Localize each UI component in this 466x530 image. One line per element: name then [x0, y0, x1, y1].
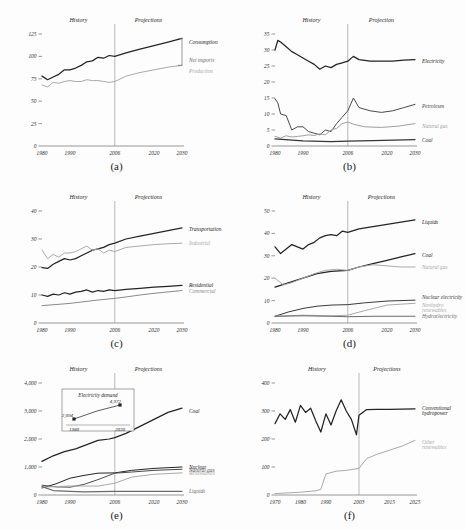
y-tick-label: 3,000: [23, 408, 36, 414]
y-tick-label: 100: [261, 464, 269, 470]
y-tick-label: 40: [31, 208, 37, 214]
y-tick-label: 75: [31, 76, 37, 82]
chart-svg: 0100200300400197019801990200320152025His…: [233, 357, 466, 512]
projection-label: Projections: [134, 366, 163, 372]
y-tick-label: 4,000: [24, 380, 36, 386]
series-label: Electricity: [421, 58, 445, 64]
series-label: Petroleum: [421, 103, 444, 109]
x-tick-label: 2025: [410, 499, 421, 505]
x-tick-label: 2020: [149, 150, 160, 156]
series-line: [42, 38, 182, 79]
panel-caption: (d): [233, 337, 466, 349]
x-tick-label: 1990: [321, 499, 332, 505]
history-label: History: [68, 17, 87, 23]
series-label: Coal: [422, 137, 433, 143]
series-line: [42, 228, 182, 269]
series-label: Natural gas: [421, 123, 448, 129]
series-line: [42, 473, 182, 487]
x-tick-label: 2020: [382, 327, 393, 333]
y-tick-label: 20: [31, 264, 37, 270]
x-tick-label: 2003: [354, 499, 365, 505]
series-line: [275, 139, 415, 142]
y-tick-label: 20: [264, 79, 270, 85]
chart-panel-a: 025507510012519801990200620202030History…: [0, 8, 233, 184]
y-tick-label: 15: [264, 95, 270, 101]
y-tick-label: 10: [264, 298, 270, 304]
series-line: [275, 220, 415, 254]
projection-label: Projections: [372, 366, 401, 372]
chart-panel-b: 0510152025303519801990200620202030Histor…: [233, 8, 466, 184]
history-label: History: [68, 194, 87, 200]
chart-panel-e: 01,0002,0003,0004,0001980199020062020203…: [0, 357, 233, 530]
series-label: Production: [188, 68, 213, 74]
series-label: Coal: [422, 252, 433, 258]
y-tick-label: 125: [28, 31, 36, 37]
x-tick-label: 1980: [37, 150, 48, 156]
panel-caption: (b): [233, 160, 466, 172]
panel-caption: (c): [0, 337, 233, 349]
series-line: [275, 122, 415, 138]
x-tick-label: 1990: [298, 150, 309, 156]
y-tick-label: 30: [263, 47, 270, 53]
series-line: [275, 265, 415, 285]
y-tick-label: 30: [263, 253, 270, 259]
series-label: Coal: [189, 408, 200, 414]
x-tick-label: 2020: [149, 499, 160, 505]
series-line: [42, 65, 182, 87]
series-line: [42, 469, 182, 487]
chart-svg: 0102030405019801990200620202030HistoryPr…: [233, 185, 466, 340]
y-tick-label: 20: [264, 275, 270, 281]
x-tick-label: 1980: [270, 327, 281, 333]
x-tick-label: 1980: [37, 327, 48, 333]
x-tick-label: 2006: [109, 327, 120, 333]
series-label: Net imports: [188, 57, 214, 63]
panel-caption: (f): [233, 509, 466, 521]
history-label: History: [301, 194, 320, 200]
y-tick-label: 0: [34, 492, 37, 498]
chart-panel-f: 0100200300400197019801990200320152025His…: [233, 357, 466, 530]
history-label: History: [301, 17, 320, 23]
history-label: History: [307, 366, 326, 372]
y-tick-label: 400: [261, 380, 269, 386]
x-tick-label: 2006: [109, 150, 120, 156]
series-line: [275, 316, 415, 317]
series-line: [275, 98, 415, 135]
x-tick-label: 2015: [384, 499, 395, 505]
series-label: Renewables: [188, 470, 215, 476]
y-tick-label: 50: [31, 98, 37, 104]
x-tick-label: 2030: [177, 499, 188, 505]
x-tick-label: 2006: [342, 150, 353, 156]
series-line: [275, 400, 415, 435]
x-tick-label: 1990: [65, 499, 76, 505]
x-tick-label: 2030: [410, 327, 421, 333]
y-tick-label: 30: [30, 236, 37, 242]
y-tick-label: 0: [34, 320, 37, 326]
y-tick-label: 200: [261, 436, 269, 442]
x-tick-label: 2030: [410, 150, 421, 156]
x-tick-label: 1990: [65, 327, 76, 333]
chart-svg: 0510152025303519801990200620202030Histor…: [233, 8, 466, 163]
y-tick-label: 0: [267, 320, 270, 326]
series-label: renewables: [422, 444, 446, 450]
chart-panel-d: 0102030405019801990200620202030HistoryPr…: [233, 185, 466, 361]
projection-label: Projection: [368, 17, 394, 23]
chart-svg: 01020304019801990200620202030HistoryProj…: [0, 185, 233, 340]
series-label: Commercial: [189, 288, 216, 294]
inset-title: Electricity demand: [77, 392, 118, 398]
y-tick-label: 1,000: [24, 464, 36, 470]
series-label: hydropower: [422, 410, 449, 416]
x-tick-label: 2006: [342, 327, 353, 333]
series-line: [275, 300, 415, 316]
x-tick-label: 2030: [177, 150, 188, 156]
inset-x-tick-label: 2030: [115, 427, 126, 432]
projection-label: Projections: [134, 17, 163, 23]
history-label: History: [68, 366, 87, 372]
y-tick-label: 5: [267, 127, 270, 133]
series-label: Consumption: [189, 39, 218, 45]
y-tick-label: 25: [264, 63, 270, 69]
x-tick-label: 1980: [295, 499, 306, 505]
series-label: Liquids: [421, 219, 438, 225]
y-tick-label: 10: [264, 111, 270, 117]
series-line: [275, 440, 415, 493]
y-tick-label: 0: [267, 143, 270, 149]
